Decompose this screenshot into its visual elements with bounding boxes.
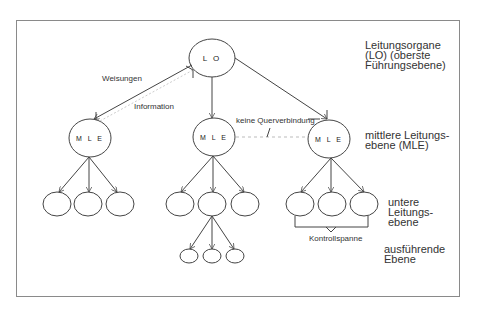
node-lower-9	[350, 192, 378, 216]
node-lower-6	[231, 192, 259, 216]
level-label-ausfuehrende: ausführende Ebene	[384, 244, 445, 264]
node-lower-8	[318, 192, 346, 216]
level-label-mle: mittlere Leitungs- ebene (MLE)	[365, 130, 449, 150]
weisungen-label: Weisungen	[102, 74, 142, 84]
node-exec-1	[180, 249, 198, 263]
node-lower-3	[106, 192, 134, 216]
edge-lo-mle-right	[235, 58, 327, 119]
keine-querverbindung-label: keine Querverbindung	[236, 116, 315, 126]
node-lower-2	[74, 192, 102, 216]
node-lower-5	[198, 192, 226, 216]
lo-label: L O	[192, 54, 232, 63]
mle-right-label: M L E	[309, 136, 349, 143]
mle-left-label: M L E	[70, 135, 110, 142]
node-lower-7	[286, 192, 314, 216]
node-exec-2	[203, 249, 221, 263]
level-label-untere: untere Leitungs- ebene	[388, 197, 433, 227]
level-label-lo: Leitungsorgane (LO) (oberste Führungsebe…	[365, 40, 446, 70]
node-lower-1	[43, 192, 71, 216]
node-lower-4	[166, 192, 194, 216]
kontrollspanne-bracket	[295, 216, 368, 232]
information-label: Information	[134, 102, 174, 112]
node-exec-3	[226, 249, 244, 263]
kontrollspanne-label: Kontrollspanne	[309, 234, 362, 244]
mle-middle-label: M L E	[194, 134, 234, 141]
